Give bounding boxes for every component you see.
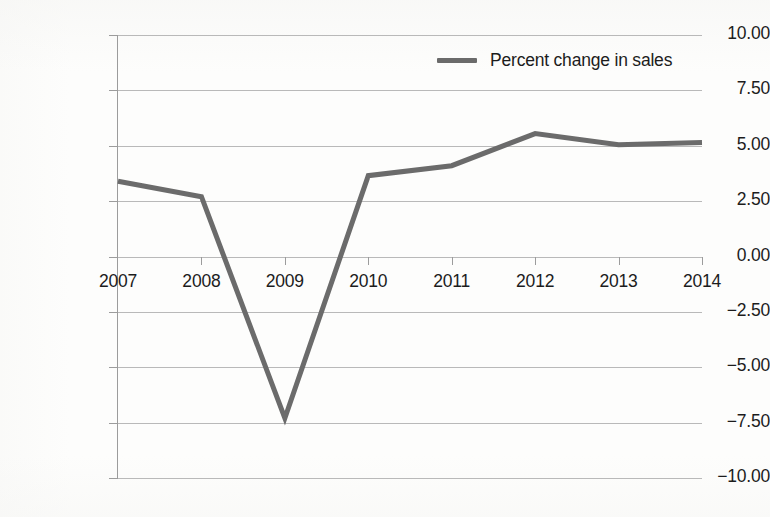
chart-legend: Percent change in sales bbox=[437, 50, 672, 71]
x-tick-mark bbox=[368, 257, 369, 265]
x-tick-label: 2010 bbox=[349, 271, 387, 292]
y-tick-mark bbox=[109, 312, 117, 313]
x-tick-mark bbox=[201, 257, 202, 265]
y-tick-mark bbox=[109, 201, 117, 202]
x-tick-mark bbox=[702, 257, 703, 265]
x-tick-label: 2013 bbox=[599, 271, 637, 292]
x-tick-label: 2008 bbox=[182, 271, 220, 292]
x-tick-label: 2014 bbox=[683, 271, 721, 292]
legend-label-percent-change-in-sales: Percent change in sales bbox=[490, 50, 672, 71]
x-tick-label: 2012 bbox=[516, 271, 554, 292]
x-tick-mark bbox=[285, 257, 286, 265]
y-tick-mark bbox=[109, 146, 117, 147]
x-tick-label: 2009 bbox=[266, 271, 304, 292]
series-layer bbox=[118, 35, 702, 478]
y-tick-mark bbox=[109, 35, 117, 36]
y-tick-mark bbox=[109, 423, 117, 424]
x-tick-mark bbox=[452, 257, 453, 265]
y-tick-mark bbox=[109, 257, 117, 258]
gridline--10 bbox=[118, 478, 702, 479]
plot-area bbox=[118, 35, 702, 478]
line-chart: 10.007.505.002.500.00−2.50−5.00−7.50−10.… bbox=[0, 0, 770, 517]
y-tick-mark bbox=[109, 478, 117, 479]
x-tick-label: 2011 bbox=[433, 271, 470, 292]
x-tick-mark bbox=[535, 257, 536, 265]
y-tick-mark bbox=[109, 367, 117, 368]
y-tick-mark bbox=[109, 90, 117, 91]
x-tick-mark bbox=[619, 257, 620, 265]
x-tick-label: 2007 bbox=[99, 271, 137, 292]
legend-swatch-percent-change-in-sales bbox=[437, 58, 477, 63]
